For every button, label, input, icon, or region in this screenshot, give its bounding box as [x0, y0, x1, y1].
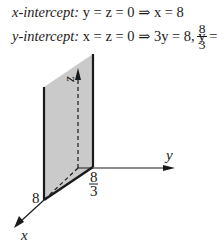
- y-intercept-tick-den: 3: [90, 183, 98, 199]
- y-axis-arrow-icon: [163, 165, 175, 171]
- z-axis-label: z: [61, 76, 77, 83]
- plane-diagram: z y x 8 8 3: [0, 0, 217, 246]
- x-intercept-tick: 8: [32, 190, 40, 206]
- plane-surface: [44, 54, 93, 200]
- x-axis-label: x: [20, 227, 28, 243]
- y-axis-label: y: [164, 147, 173, 163]
